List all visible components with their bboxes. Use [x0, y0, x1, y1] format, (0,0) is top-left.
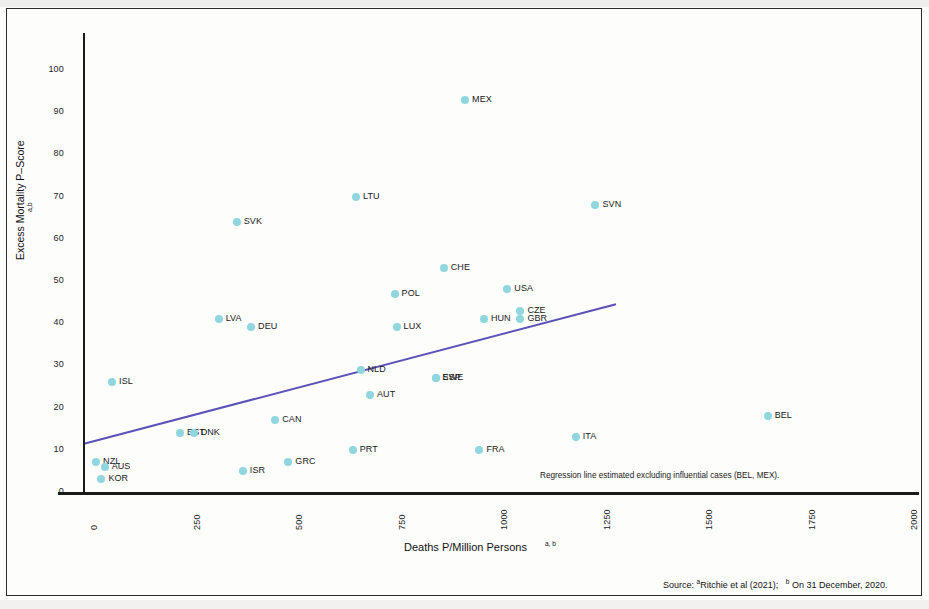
x-axis-line	[58, 492, 919, 495]
data-point-label: LUX	[404, 321, 422, 331]
data-point-label: ISL	[119, 376, 133, 386]
data-point-marker	[357, 366, 365, 374]
scatter-plot: 0102030405060708090100 02505007501000125…	[0, 0, 929, 609]
data-point-marker	[461, 96, 469, 104]
data-point-label: PRT	[360, 444, 378, 454]
x-axis-title-superscript: a, b	[545, 540, 556, 547]
data-point-label: HUN	[491, 313, 511, 323]
data-point-label: USA	[514, 283, 533, 293]
data-point-label: SVK	[244, 216, 262, 226]
data-point-label: NLD	[368, 364, 386, 374]
data-point-marker	[215, 315, 223, 323]
data-point-marker	[352, 193, 360, 201]
source-prefix: Source:	[663, 580, 694, 590]
data-point-marker	[247, 323, 255, 331]
regression-line	[0, 0, 929, 609]
data-point-marker	[101, 463, 109, 471]
source-b-text: On 31 December, 2020.	[792, 580, 888, 590]
x-tick-label: 1500	[704, 509, 714, 530]
data-point-marker	[475, 446, 483, 454]
data-point-marker	[366, 391, 374, 399]
y-tick-label: 30	[24, 359, 64, 369]
x-axis-title: Deaths P/Million Persons	[404, 541, 527, 553]
x-tick-label: 2000	[909, 509, 919, 530]
x-tick-label: 0	[89, 525, 99, 530]
data-point-marker	[391, 290, 399, 298]
x-tick-label: 1000	[499, 509, 509, 530]
data-point-label: FRA	[486, 444, 504, 454]
data-point-marker	[190, 429, 198, 437]
data-point-marker	[176, 429, 184, 437]
data-point-label: GBR	[527, 313, 547, 323]
data-point-marker	[271, 416, 279, 424]
data-point-label: BEL	[775, 410, 792, 420]
data-point-label: AUS	[112, 461, 131, 471]
data-point-label: LVA	[226, 313, 242, 323]
data-point-label: DNK	[201, 427, 220, 437]
y-tick-label: 10	[24, 444, 64, 454]
data-point-marker	[233, 218, 241, 226]
data-point-label: AUT	[377, 389, 395, 399]
y-tick-label: 40	[24, 317, 64, 327]
data-point-label: CHE	[451, 262, 470, 272]
y-tick-label: 60	[24, 233, 64, 243]
data-point-marker	[239, 467, 247, 475]
y-tick-label: 20	[24, 402, 64, 412]
x-tick-label: 500	[294, 514, 304, 530]
data-point-marker	[440, 264, 448, 272]
y-tick-label: 70	[24, 191, 64, 201]
x-tick-label: 250	[192, 514, 202, 530]
y-tick-label: 90	[24, 106, 64, 116]
data-point-label: KOR	[108, 473, 128, 483]
data-point-marker	[432, 374, 440, 382]
y-tick-label: 100	[24, 64, 64, 74]
y-tick-label: 0	[24, 486, 64, 496]
data-point-marker	[572, 433, 580, 441]
data-point-marker	[284, 458, 292, 466]
data-point-marker	[92, 458, 100, 466]
y-tick-label: 80	[24, 148, 64, 158]
data-point-marker	[764, 412, 772, 420]
data-point-marker	[97, 475, 105, 483]
y-axis-title: Excess Mortality P–Score	[14, 140, 26, 260]
source-b-superscript: b	[786, 578, 790, 585]
data-point-label: DEU	[258, 321, 277, 331]
data-point-label: ESP	[443, 372, 461, 382]
data-point-label: ITA	[583, 431, 597, 441]
data-point-marker	[516, 307, 524, 315]
data-point-marker	[349, 446, 357, 454]
x-tick-label: 1250	[602, 509, 612, 530]
data-point-marker	[516, 315, 524, 323]
data-point-marker	[108, 378, 116, 386]
data-point-label: MEX	[472, 94, 492, 104]
data-point-label: LTU	[363, 191, 380, 201]
y-axis-title-superscript: a,b	[26, 202, 33, 212]
regression-note: Regression line estimated excluding infl…	[540, 471, 779, 480]
x-tick-label: 1750	[807, 509, 817, 530]
y-axis-line	[83, 33, 85, 494]
source-footnote: Source: aRitchie et al (2021); b On 31 D…	[663, 578, 887, 590]
data-point-label: GRC	[295, 456, 315, 466]
data-point-label: CAN	[282, 414, 301, 424]
y-tick-label: 50	[24, 275, 64, 285]
data-point-marker	[503, 285, 511, 293]
figure-page: 0102030405060708090100 02505007501000125…	[0, 0, 929, 609]
data-point-label: ISR	[250, 465, 265, 475]
data-point-label: SVN	[602, 199, 621, 209]
data-point-marker	[480, 315, 488, 323]
data-point-label: POL	[402, 288, 420, 298]
data-point-marker	[591, 201, 599, 209]
data-point-marker	[393, 323, 401, 331]
source-a-text: Ritchie et al (2021);	[700, 580, 778, 590]
x-tick-label: 750	[397, 514, 407, 530]
